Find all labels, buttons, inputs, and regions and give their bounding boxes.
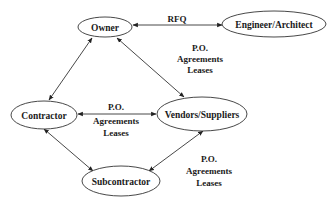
node-engineer-architect: Engineer/Architect [222,11,326,37]
vendors-label: Vendors/Suppliers [165,110,240,120]
relationship-diagram: Owner Engineer/Architect Contractor Vend… [0,0,334,213]
owner-label: Owner [91,23,120,33]
rfq-label: RFQ [168,14,187,24]
node-subcontractor: Subcontractor [82,166,160,196]
edge-contractor-subcontractor [44,129,93,171]
contractor-vendor-label-line3: Leases [103,128,129,138]
owner-vendor-label: P.O. Agreements Leases [177,43,223,75]
edge-owner-vendors [117,38,184,97]
contractor-vendor-label-line1: P.O. [108,102,124,112]
owner-vendor-label-line3: Leases [187,65,213,75]
owner-vendor-label-line2: Agreements [177,54,223,64]
sub-vendor-label-line3: Leases [196,178,222,188]
contractor-label: Contractor [21,111,67,121]
sub-vendor-label-line2: Agreements [186,166,232,176]
sub-vendor-label: P.O. Agreements Leases [186,154,232,188]
node-vendors-suppliers: Vendors/Suppliers [157,97,247,131]
owner-vendor-label-line1: P.O. [192,43,208,53]
edge-owner-contractor [49,38,92,100]
contractor-vendor-label-line2: Agreements [93,116,139,126]
engineer-label: Engineer/Architect [235,20,313,30]
sub-vendor-label-line1: P.O. [201,154,217,164]
subcontractor-label: Subcontractor [92,177,151,187]
contractor-vendor-label: P.O. Agreements Leases [93,102,139,138]
node-owner: Owner [78,17,132,37]
node-contractor: Contractor [11,101,77,129]
edge-subcontractor-vendors [149,131,203,171]
